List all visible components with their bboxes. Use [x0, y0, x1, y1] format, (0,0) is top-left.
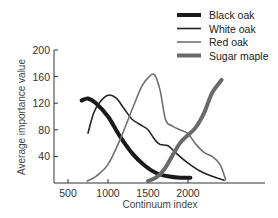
- importance-value-chart: 4080120160200 500100015002000 Average im…: [0, 0, 278, 218]
- legend-label: Sugar maple: [209, 50, 269, 62]
- x-tick-label: 500: [59, 187, 77, 199]
- y-tick-label: 200: [32, 44, 50, 56]
- y-tick-label: 120: [32, 97, 50, 109]
- y-tick-label: 40: [38, 150, 50, 162]
- y-tick-label: 160: [32, 71, 50, 83]
- series-lines: [82, 74, 226, 181]
- series-line-sugar-maple: [148, 80, 222, 181]
- series-line-white-oak: [88, 95, 224, 180]
- legend-label: Red oak: [209, 36, 249, 48]
- x-axis-ticks: 500100015002000: [59, 179, 200, 199]
- x-tick-label: 1000: [96, 187, 120, 199]
- x-tick-label: 2000: [176, 187, 200, 199]
- y-tick-label: 80: [38, 124, 50, 136]
- series-line-black-oak: [82, 98, 191, 177]
- y-axis-title: Average importance value: [16, 59, 27, 175]
- legend-label: White oak: [209, 23, 256, 35]
- legend: Black oakWhite oakRed oakSugar maple: [177, 9, 269, 62]
- series-line-red-oak: [87, 74, 225, 181]
- legend-label: Black oak: [209, 9, 255, 21]
- x-axis-title: Continuum index: [122, 199, 197, 210]
- x-tick-label: 1500: [136, 187, 160, 199]
